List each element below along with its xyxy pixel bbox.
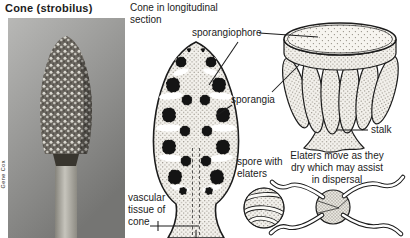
- sporangium-blob: [182, 95, 193, 106]
- elaters-caption: Elaters move as they dry which may assis…: [286, 150, 388, 187]
- sporangium-blob: [161, 139, 176, 155]
- section-heading: Cone in longitudinal section: [130, 2, 232, 26]
- textbook-diagram-page: Cone (strobilus) Gene Cox Cone in longit…: [0, 0, 410, 238]
- sporangium-blob: [180, 126, 191, 137]
- sporangium-blob: [201, 156, 212, 167]
- photo-title: Cone (strobilus): [5, 2, 93, 15]
- sporangium-blob: [206, 57, 217, 68]
- sporangium-blob: [176, 57, 187, 68]
- label-sporangiophore: sporangiophore: [192, 27, 262, 39]
- sporangium-blob: [161, 107, 176, 123]
- label-vascular-tissue: vascular tissue of cone: [128, 192, 188, 229]
- photo-figure: [8, 18, 125, 238]
- disc-top: [284, 23, 396, 55]
- sporangium-blob: [202, 126, 213, 137]
- sporangium-blob: [187, 48, 191, 52]
- sporangium-blob: [205, 187, 213, 195]
- photo-credit: Gene Cox: [0, 160, 6, 188]
- photo-stem: [55, 160, 77, 238]
- sporangium-blob: [215, 139, 230, 155]
- coiled-spore-figure: [244, 188, 284, 228]
- sporangium-blob: [201, 48, 205, 52]
- sporangium-blob: [200, 95, 211, 106]
- sporangium-blob: [181, 156, 192, 167]
- label-sporangia: sporangia: [231, 94, 275, 106]
- label-stalk: stalk: [371, 124, 392, 136]
